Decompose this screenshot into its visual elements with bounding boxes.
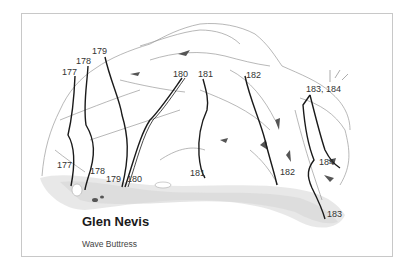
route-label-top-181: 181 bbox=[198, 69, 213, 79]
route-181 bbox=[199, 79, 208, 178]
route-label-top-182: 182 bbox=[246, 70, 261, 80]
route-label-bottom-179: 179 bbox=[106, 174, 121, 184]
route-label-bottom-184: 184 bbox=[319, 157, 334, 167]
route-label-top-183-184: 183, 184 bbox=[306, 84, 341, 94]
route-label-top-180: 180 bbox=[173, 69, 188, 79]
route-180-b bbox=[128, 78, 185, 187]
route-label-top-178: 178 bbox=[76, 56, 91, 66]
route-label-bottom-177: 177 bbox=[57, 160, 72, 170]
crag-title: Glen Nevis bbox=[82, 214, 149, 229]
rock-buttress-illustration bbox=[0, 0, 403, 275]
route-label-bottom-178: 178 bbox=[90, 166, 105, 176]
route-label-bottom-182: 182 bbox=[280, 167, 295, 177]
route-label-bottom-183: 183 bbox=[327, 209, 342, 219]
route-label-bottom-180: 180 bbox=[127, 174, 142, 184]
route-182 bbox=[245, 76, 277, 185]
crag-subtitle: Wave Buttress bbox=[82, 239, 137, 249]
route-label-bottom-181: 181 bbox=[190, 168, 205, 178]
route-179 bbox=[105, 57, 127, 187]
route-label-top-179: 179 bbox=[92, 46, 107, 56]
route-label-top-177: 177 bbox=[62, 67, 77, 77]
